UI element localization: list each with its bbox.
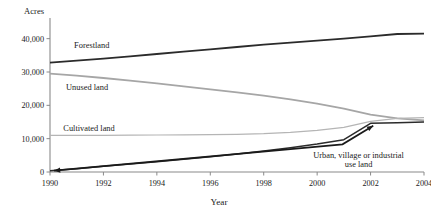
y-tick-label: 20,000: [21, 101, 44, 110]
x-tick-label: 1994: [149, 179, 165, 188]
y-tick-label: 30,000: [21, 68, 44, 77]
x-tick-label: 1992: [95, 179, 111, 188]
x-tick-label: 2002: [362, 179, 378, 188]
y-axis-unit-label: Acres: [24, 6, 45, 16]
y-tick-label: 10,000: [21, 135, 44, 144]
line-chart: 010,00020,00030,00040,000199019921994199…: [0, 0, 431, 213]
x-tick-label: 1990: [42, 179, 58, 188]
y-tick-label: 40,000: [21, 35, 44, 44]
series-line-1: [50, 74, 424, 121]
x-axis-title: Year: [211, 197, 228, 207]
x-tick-label: 2000: [309, 179, 325, 188]
chart-labels-layer: AcresYearForestlandUnused landCultivated…: [24, 6, 405, 207]
series-label-1: Unused land: [66, 83, 109, 92]
x-tick-label: 2004: [416, 179, 431, 188]
series-label-0: Forestland: [74, 41, 110, 50]
y-tick-label: 0: [40, 168, 44, 177]
series-label-2: Cultivated land: [63, 124, 115, 133]
chart-container: 010,00020,00030,00040,000199019921994199…: [0, 0, 431, 213]
annotation-text-line2: use land: [345, 160, 373, 169]
x-tick-label: 1998: [256, 179, 272, 188]
x-tick-label: 1996: [202, 179, 218, 188]
